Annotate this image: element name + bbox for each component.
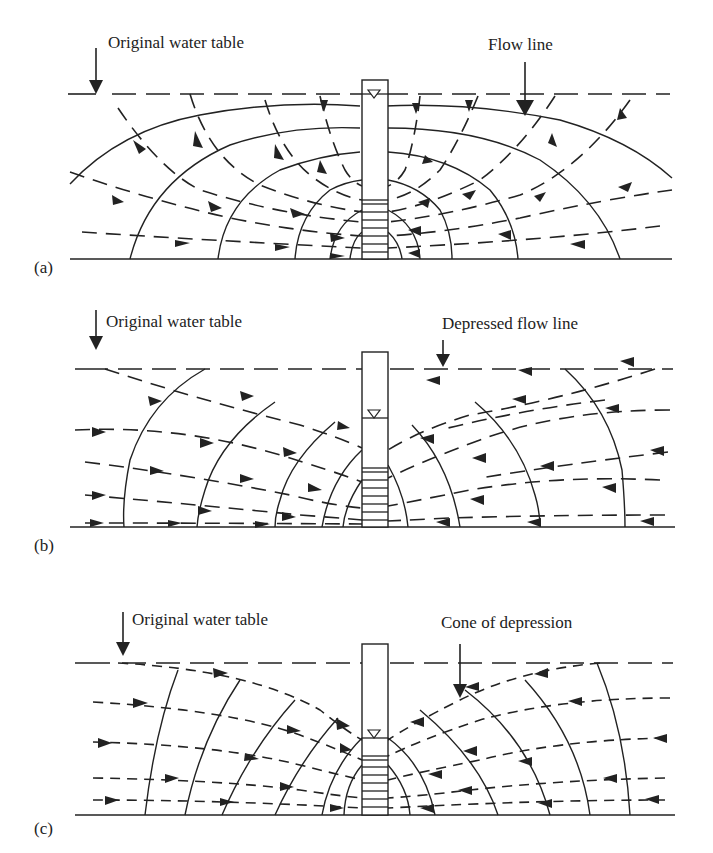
- flow-net-diagram-a: [0, 0, 713, 290]
- well-casing: [362, 80, 388, 259]
- panel-b: Original water table Depressed flow line…: [0, 290, 713, 560]
- pointer-arrow-icon: [116, 612, 467, 698]
- well-casing: [362, 352, 388, 527]
- panel-c: Original water table Cone of depression …: [0, 560, 713, 853]
- flow-net-diagram-b: [0, 290, 713, 560]
- well-casing: [362, 644, 388, 815]
- panel-a: Original water table Flow line (a): [0, 0, 713, 290]
- flow-net-diagram-c: [0, 560, 713, 853]
- pointer-arrow-icon: [89, 310, 450, 367]
